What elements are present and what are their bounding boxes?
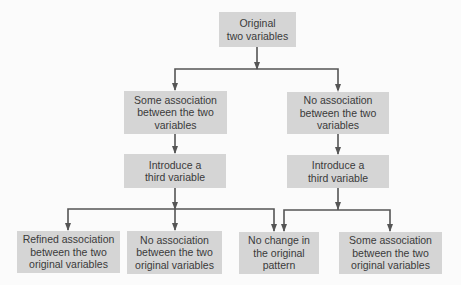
box-text: Some association — [134, 94, 217, 107]
box-text: third variable — [308, 172, 368, 185]
box-text: No association — [135, 234, 214, 247]
box-refined-association: Refined associationbetween the twoorigin… — [17, 231, 120, 273]
box-text: pattern — [248, 259, 310, 272]
box-text: between the two — [23, 246, 115, 259]
box-text: original variables — [23, 258, 115, 271]
box-some-association: Some associationbetween the twovariables — [124, 91, 227, 134]
box-no-association: No associationbetween the twovariables — [287, 92, 389, 134]
box-text: variables — [134, 119, 217, 132]
box-text: Some association — [349, 234, 432, 247]
box-text: the original — [248, 247, 310, 260]
box-some-association-original: Some associationbetween the twooriginal … — [339, 232, 442, 274]
box-no-association-original: No associationbetween the twooriginal va… — [127, 231, 222, 274]
box-introduce-third-variable-right: Introduce athird variable — [287, 155, 389, 188]
box-text: original variables — [135, 259, 214, 272]
box-text: Original — [227, 17, 288, 30]
box-introduce-third-variable-left: Introduce athird variable — [124, 154, 226, 188]
box-text: two variables — [227, 30, 288, 43]
box-text: between the two — [134, 106, 217, 119]
box-text: Refined association — [23, 233, 115, 246]
box-text: variables — [300, 119, 376, 132]
box-text: between the two — [349, 247, 432, 260]
box-text: No association — [300, 94, 376, 107]
box-text: between the two — [135, 246, 214, 259]
box-original-two-variables: Originaltwo variables — [219, 12, 296, 47]
box-text: Introduce a — [145, 159, 205, 172]
box-text: No change in — [248, 234, 310, 247]
box-no-change-pattern: No change inthe originalpattern — [239, 232, 319, 274]
box-text: Introduce a — [308, 159, 368, 172]
box-text: original variables — [349, 259, 432, 272]
box-text: between the two — [300, 107, 376, 120]
box-text: third variable — [145, 171, 205, 184]
